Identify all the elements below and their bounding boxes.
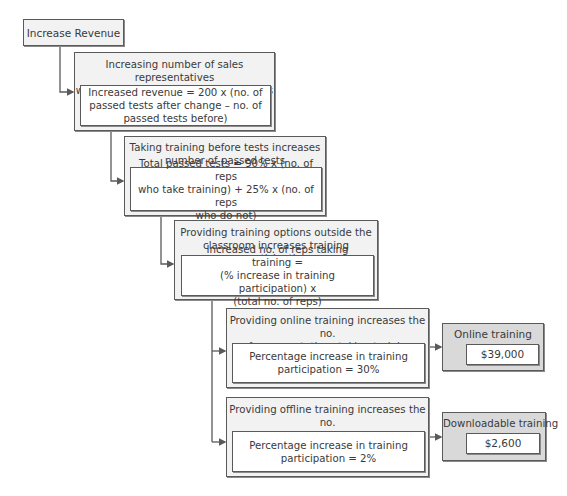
result-value: $2,600 bbox=[466, 433, 540, 454]
formula-line: (total no. of reps) bbox=[233, 295, 322, 308]
root-node-label: Increase Revenue bbox=[24, 20, 123, 45]
node-title-line: Providing training options outside the bbox=[175, 226, 377, 239]
formula-line: participation = 2% bbox=[281, 452, 377, 465]
formula-line: passed tests before) bbox=[123, 112, 227, 125]
formula-line: Percentage increase in training bbox=[249, 439, 408, 452]
formula-line: Increased no. of reps taking training = bbox=[186, 243, 369, 269]
formula-line: Percentage increase in training bbox=[249, 350, 408, 363]
node-formula-box: Increased revenue = 200 x (no. of passed… bbox=[80, 85, 271, 126]
result-label: Downloadable training bbox=[443, 417, 545, 430]
result-online-training: Online training $39,000 bbox=[442, 323, 544, 371]
node-title-line: Increasing number of sales representativ… bbox=[75, 58, 274, 84]
node-offline-training: Providing offline training increases the… bbox=[226, 397, 429, 477]
node-online-training: Providing online training increases the … bbox=[226, 308, 429, 388]
result-label: Online training bbox=[443, 328, 543, 341]
node-training-outside-classroom: Providing training options outside the c… bbox=[174, 220, 378, 300]
node-formula-box: Percentage increase in training particip… bbox=[232, 431, 425, 472]
formula-line: participation = 30% bbox=[277, 363, 379, 376]
node-sales-reps-passed-tests: Increasing number of sales representativ… bbox=[74, 52, 275, 131]
formula-line: Total passed tests = 90% x (no. of reps bbox=[135, 157, 317, 183]
node-formula-box: Increased no. of reps taking training = … bbox=[181, 255, 374, 296]
formula-line: who take training) + 25% x (no. of reps bbox=[135, 183, 317, 209]
node-title-line: Providing online training increases the … bbox=[227, 314, 428, 340]
node-title-line: Providing offline training increases the… bbox=[227, 403, 428, 429]
node-title-line: Taking training before tests increases bbox=[125, 141, 325, 154]
node-training-before-tests: Taking training before tests increases n… bbox=[124, 136, 326, 216]
root-node-increase-revenue: Increase Revenue bbox=[23, 19, 124, 46]
result-downloadable-training: Downloadable training $2,600 bbox=[442, 412, 546, 461]
formula-line: Increased revenue = 200 x (no. of bbox=[88, 86, 262, 99]
result-value: $39,000 bbox=[466, 344, 539, 365]
node-formula-box: Total passed tests = 90% x (no. of reps … bbox=[130, 167, 322, 211]
node-formula-box: Percentage increase in training particip… bbox=[232, 343, 425, 383]
formula-line: (% increase in training participation) x bbox=[186, 269, 369, 295]
formula-line: passed tests after change – no. of bbox=[89, 99, 262, 112]
